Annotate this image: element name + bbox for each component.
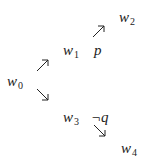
node-w1-base: w <box>63 42 73 58</box>
node-w2-sub: 2 <box>130 16 135 27</box>
arrow-up-right-icon <box>36 58 50 72</box>
node-w0-base: w <box>7 73 17 89</box>
node-w2: w2 <box>119 10 135 27</box>
arrow-down-right-icon <box>93 124 107 138</box>
proposition-p: p <box>94 43 102 58</box>
node-w4-base: w <box>121 140 131 156</box>
node-w3: w3 <box>63 110 79 127</box>
arrow-down-right-icon <box>36 88 50 102</box>
node-w3-base: w <box>63 109 73 125</box>
arrow-up-right-icon <box>92 24 106 38</box>
node-w4-sub: 4 <box>132 147 137 158</box>
node-w4: w4 <box>121 141 137 158</box>
node-w0-sub: 0 <box>18 80 23 91</box>
node-w3-sub: 3 <box>74 116 79 127</box>
node-w2-base: w <box>119 9 129 25</box>
node-w0: w0 <box>7 74 23 91</box>
node-w1-sub: 1 <box>74 49 79 60</box>
node-w1: w1 <box>63 43 79 60</box>
proposition-not-q: ¬q <box>91 110 109 125</box>
